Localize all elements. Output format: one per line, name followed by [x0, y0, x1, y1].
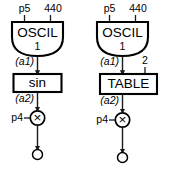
branch-sin: p5 440 OSCIL 1 (a1) sin (a2) p4 ×	[11, 2, 63, 159]
osc-input-label-p5-left: p5	[19, 2, 31, 14]
amplitude-label-left: p4	[11, 111, 23, 123]
signal-label-a1-left: (a1)	[15, 55, 34, 67]
output-terminal-right	[118, 153, 128, 163]
unit-label-sin: sin	[29, 75, 46, 90]
oscillator-subscript-right: 1	[120, 40, 126, 52]
osc-input-label-freq-left: 440	[44, 2, 62, 14]
signal-label-a2-left: (a2)	[15, 92, 34, 104]
oscillator-label-left: OSCIL	[17, 25, 58, 40]
osc-input-label-freq-right: 440	[129, 2, 147, 14]
signal-flow-diagram: p5 440 OSCIL 1 (a1) sin (a2) p4 ×	[0, 0, 169, 174]
oscillator-subscript-left: 1	[35, 40, 41, 52]
table-second-input-label: 2	[142, 54, 148, 66]
signal-label-a1-right: (a1)	[100, 55, 119, 67]
output-terminal-left	[33, 150, 43, 160]
oscillator-label-right: OSCIL	[102, 25, 143, 40]
unit-label-table: TABLE	[108, 76, 150, 91]
branch-table: p5 440 OSCIL 1 (a1) 2 TABLE (a2) p4 ×	[96, 2, 157, 162]
amplitude-label-right: p4	[96, 113, 108, 125]
osc-input-label-p5-right: p5	[104, 2, 116, 14]
multiplier-glyph-right: ×	[119, 112, 127, 127]
diagram-canvas: p5 440 OSCIL 1 (a1) sin (a2) p4 ×	[0, 0, 169, 174]
multiplier-glyph-left: ×	[34, 110, 42, 125]
signal-label-a2-right: (a2)	[100, 94, 119, 106]
